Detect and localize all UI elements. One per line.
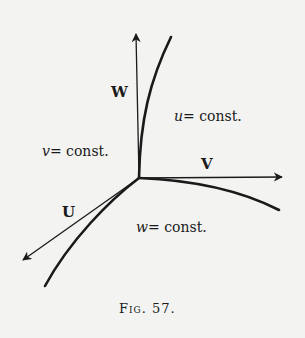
v-axis-arrow [139, 177, 282, 178]
w-axis-label: W [111, 83, 128, 101]
curve-right [139, 178, 279, 210]
figure-caption: Fig. 57. [119, 301, 176, 316]
coordinate-diagram [0, 0, 305, 338]
v-axis-label: V [201, 155, 213, 173]
v-const-label: v= const. [42, 143, 109, 159]
w-axis-arrow [136, 34, 139, 178]
curve-lower-left [45, 178, 139, 286]
u-axis-arrow [23, 178, 139, 260]
w-const-label: w= const. [136, 219, 207, 235]
u-axis-label: U [62, 203, 75, 221]
u-const-label: u= const. [174, 108, 242, 124]
curve-upper [139, 37, 171, 178]
